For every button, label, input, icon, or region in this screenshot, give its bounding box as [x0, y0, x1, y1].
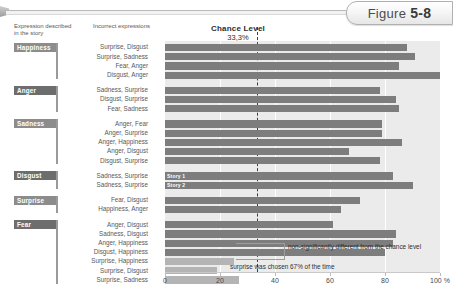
x-tick-label: 20	[216, 277, 224, 284]
bar: Story 1	[165, 172, 393, 179]
plot-area: Story 1Story 2	[165, 41, 440, 272]
annotation-non-significant: non-significantly different from the cha…	[288, 243, 448, 251]
bar-row	[165, 157, 440, 164]
bar-row	[165, 130, 440, 137]
bar-row: Story 2	[165, 182, 440, 189]
annotation-surprise-note: surprise was chosen 67% of the time	[230, 263, 430, 271]
bar-row	[165, 105, 440, 112]
bar-row-label: Disgust, Anger	[48, 71, 148, 78]
bar-row-label: Happiness, Anger	[48, 205, 148, 212]
bar-row	[165, 62, 440, 69]
bar-row	[165, 276, 440, 283]
x-tick	[440, 273, 441, 276]
x-tick	[165, 273, 166, 276]
bar	[165, 62, 399, 69]
figure-tab-text: Figure 5-8	[368, 5, 432, 21]
bar-row	[165, 53, 440, 60]
annotation-bracket	[236, 243, 285, 260]
bar-row-label: Surprise, Disgust	[48, 267, 148, 274]
x-tick	[330, 273, 331, 276]
bar-row-label: Surprise, Happiness	[48, 257, 148, 264]
header-rule	[6, 10, 346, 15]
x-tick	[385, 273, 386, 276]
bar-row-label: Sadness, Surprise	[48, 172, 148, 179]
column-header-incorrect: Incorrect expressions	[72, 23, 150, 30]
bar	[165, 87, 380, 94]
gridline	[440, 41, 441, 272]
x-tick	[220, 273, 221, 276]
bar-row-label: Sadness, Surprise	[48, 86, 148, 93]
bar-row	[165, 206, 440, 213]
figure-tab: Figure 5-8	[346, 1, 453, 25]
bar-row-label: Fear, Sadness	[48, 105, 148, 112]
bar	[165, 157, 380, 164]
bar	[165, 96, 396, 103]
bar-row	[165, 44, 440, 51]
figure-label: Figure	[368, 6, 407, 21]
x-tick-label: 100 %	[430, 277, 450, 284]
bar	[165, 197, 360, 204]
bar-row	[165, 221, 440, 228]
bar-overlay-label: Story 2	[167, 182, 185, 188]
x-axis	[165, 272, 440, 273]
figure-subnumber: 8	[423, 5, 431, 21]
x-tick-label: 60	[326, 277, 334, 284]
category-bracket	[56, 43, 58, 79]
bar-row-label: Anger, Fear	[48, 120, 148, 127]
bar-row-label: Anger, Happiness	[48, 239, 148, 246]
bar-row-label: Anger, Happiness	[48, 138, 148, 145]
bar-row-label: Surprise, Disgust	[48, 43, 148, 50]
bar	[165, 206, 341, 213]
bar	[165, 258, 234, 265]
bar-row-label: Anger, Disgust	[48, 221, 148, 228]
bar	[165, 267, 217, 274]
bar-row	[165, 230, 440, 237]
bar-row-label: Sadness, Disgust	[48, 230, 148, 237]
bar	[165, 221, 333, 228]
bar	[165, 105, 399, 112]
bar	[165, 130, 382, 137]
bar	[165, 276, 239, 283]
x-tick	[275, 273, 276, 276]
bar-row: Story 1	[165, 172, 440, 179]
bar-row	[165, 96, 440, 103]
column-header-expression: Expression described in the story	[14, 23, 72, 37]
category-bracket	[56, 196, 58, 213]
category-bracket	[56, 171, 58, 188]
bar-row-label: Anger, Disgust	[48, 147, 148, 154]
bar-row-label: Surprise, Sadness	[48, 53, 148, 60]
bar-row-label: Disgust, Surprise	[48, 95, 148, 102]
bar	[165, 148, 349, 155]
bar-row-label: Fear, Disgust	[48, 196, 148, 203]
bar	[165, 230, 396, 237]
x-tick-label: 40	[271, 277, 279, 284]
bar-row	[165, 197, 440, 204]
bar	[165, 72, 440, 79]
bar-row-label: Surprise, Sadness	[48, 276, 148, 283]
bar-row-label: Disgust, Surprise	[48, 157, 148, 164]
bar: Story 2	[165, 182, 413, 189]
category-bracket	[56, 220, 58, 283]
bar	[165, 120, 382, 127]
bar-row	[165, 72, 440, 79]
bar-row-label: Anger, Surprise	[48, 129, 148, 136]
chart-title: Chance Level	[178, 24, 298, 33]
bar-row-label: Sadness, Surprise	[48, 181, 148, 188]
bar-row	[165, 87, 440, 94]
bar-row	[165, 120, 440, 127]
category-bracket	[56, 86, 58, 113]
bar-row	[165, 148, 440, 155]
bar-row-label: Disgust, Happiness	[48, 248, 148, 255]
bar	[165, 44, 407, 51]
x-tick-label: 80	[381, 277, 389, 284]
bar-overlay-label: Story 1	[167, 173, 185, 179]
x-tick-label: 0	[163, 277, 167, 284]
bar-row	[165, 139, 440, 146]
bar	[165, 139, 402, 146]
bar	[165, 53, 415, 60]
category-bracket	[56, 119, 58, 164]
bar-row-label: Fear, Anger	[48, 62, 148, 69]
